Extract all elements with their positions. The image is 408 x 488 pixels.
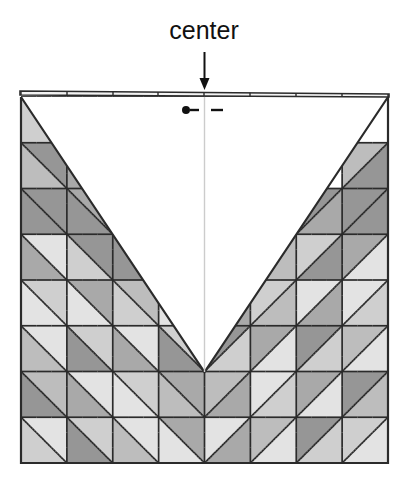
top-edge-band — [20, 91, 389, 97]
crease-pattern-diagram — [0, 0, 408, 488]
center-arrow-icon — [200, 52, 210, 90]
mountain-dot-icon — [182, 106, 190, 114]
arrow-head — [200, 78, 210, 90]
crease-pattern-figure: center — [0, 0, 408, 488]
